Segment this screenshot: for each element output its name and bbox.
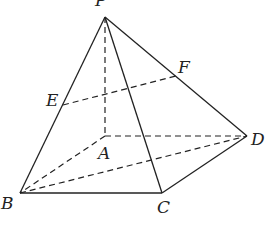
label-B: B (1, 195, 14, 212)
label-C: C (157, 199, 170, 216)
edge-PB (20, 17, 105, 193)
edge-PC (105, 17, 162, 193)
edge-AB (20, 136, 105, 193)
segment-EF (63, 76, 176, 105)
edge-CD (162, 136, 247, 193)
edge-PD (105, 17, 247, 136)
label-D: D (251, 131, 265, 148)
label-F: F (178, 59, 190, 76)
pyramid-drawing (0, 0, 266, 233)
label-A: A (98, 145, 110, 162)
label-P: P (95, 0, 106, 9)
edge-BD (20, 136, 247, 193)
pyramid-diagram: P E F A D B C (0, 0, 266, 233)
label-E: E (46, 92, 58, 109)
